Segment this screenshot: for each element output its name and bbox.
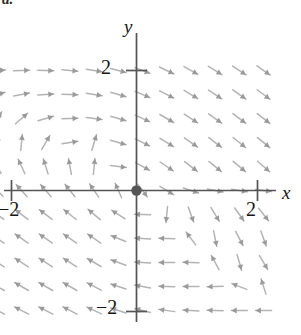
field-arrow	[256, 308, 272, 314]
field-arrow	[211, 208, 219, 222]
field-arrow	[39, 307, 53, 314]
field-arrow	[209, 114, 222, 123]
field-arrow	[233, 66, 246, 75]
field-arrow	[38, 68, 54, 74]
field-arrow	[110, 164, 126, 170]
field-arrow	[257, 66, 270, 75]
field-arrow	[111, 116, 126, 122]
field-arrow	[62, 116, 78, 122]
field-arrow	[15, 258, 28, 267]
field-arrow	[207, 308, 223, 314]
field-arrow	[15, 234, 28, 243]
field-arrow	[111, 259, 126, 265]
arrowhead	[207, 284, 212, 290]
arrowhead	[48, 68, 53, 74]
field-arrow	[184, 90, 198, 98]
field-arrow	[232, 283, 247, 290]
field-arrow	[259, 208, 269, 221]
arrowhead	[183, 284, 188, 290]
arrowhead	[256, 308, 261, 314]
field-arrow	[62, 68, 78, 74]
field-arrow	[62, 139, 78, 145]
arrowhead	[24, 91, 30, 97]
field-arrow	[164, 207, 170, 223]
field-arrow	[67, 159, 73, 175]
arrowhead	[231, 308, 236, 314]
field-arrow	[135, 115, 150, 122]
y-axis-tick-label-negative: −2	[96, 297, 117, 317]
arrowhead	[207, 308, 212, 314]
field-arrow	[0, 258, 4, 267]
field-arrow	[231, 308, 247, 314]
field-arrow	[92, 135, 98, 150]
field-arrow	[233, 138, 246, 148]
arrowhead	[183, 260, 188, 266]
arrowhead	[19, 135, 25, 141]
field-arrow	[260, 279, 266, 294]
y-axis-tick-label-positive: 2	[101, 57, 111, 77]
field-arrow	[233, 90, 246, 99]
field-arrow	[185, 162, 198, 172]
field-arrow	[63, 307, 77, 314]
field-arrow	[92, 159, 98, 175]
field-arrow	[186, 232, 196, 245]
field-arrow	[86, 92, 102, 98]
arrowhead	[216, 118, 222, 124]
field-arrow	[183, 260, 199, 266]
field-arrow	[16, 113, 28, 124]
field-arrow	[86, 116, 102, 122]
field-arrow	[0, 91, 5, 97]
field-arrow	[88, 234, 101, 243]
field-arrow	[112, 210, 125, 219]
field-arrow	[184, 67, 198, 75]
x-axis-tick-label-positive: 2	[246, 199, 256, 219]
arrowhead	[135, 283, 141, 289]
field-arrow	[184, 114, 197, 123]
field-arrow	[237, 255, 243, 270]
field-arrow	[0, 234, 4, 243]
field-arrow	[183, 284, 199, 290]
field-arrow	[111, 235, 126, 242]
field-arrow	[63, 282, 77, 290]
field-arrow	[159, 236, 175, 242]
field-arrow	[0, 135, 1, 151]
arrowhead	[0, 112, 2, 118]
vector-field-figure: a. y x 2 −2 2 −2	[0, 0, 301, 335]
arrowhead	[0, 67, 5, 73]
arrowhead	[72, 68, 78, 74]
field-arrow	[19, 135, 25, 151]
field-arrow	[39, 234, 52, 243]
field-arrow	[261, 231, 267, 246]
arrowhead	[120, 68, 126, 74]
origin-point-marker	[131, 185, 141, 195]
y-axis-label: y	[124, 17, 132, 36]
arrowhead	[159, 284, 165, 290]
field-arrow	[160, 138, 174, 146]
field-arrow	[63, 234, 76, 243]
axes-layer	[4, 33, 276, 322]
field-arrow	[0, 112, 2, 125]
field-arrow	[160, 91, 174, 98]
field-arrow	[39, 258, 52, 267]
field-arrow	[111, 283, 126, 289]
field-arrow	[0, 185, 3, 196]
arrowhead	[183, 307, 189, 313]
field-arrow	[184, 138, 197, 147]
field-arrow	[159, 284, 175, 290]
field-arrow	[14, 68, 30, 74]
field-arrow	[135, 91, 150, 98]
field-arrow	[38, 91, 54, 97]
arrowhead	[72, 116, 78, 122]
field-arrow	[211, 255, 219, 269]
field-arrow	[42, 136, 50, 150]
field-arrow	[159, 307, 175, 313]
arrowhead	[159, 260, 164, 266]
field-arrow	[14, 91, 30, 97]
field-arrow	[257, 90, 270, 100]
field-arrow	[207, 284, 223, 290]
field-arrow	[233, 114, 246, 124]
field-arrow	[159, 260, 175, 266]
field-arrow	[235, 208, 244, 221]
field-arrow	[86, 68, 102, 74]
arrowhead	[92, 159, 98, 165]
